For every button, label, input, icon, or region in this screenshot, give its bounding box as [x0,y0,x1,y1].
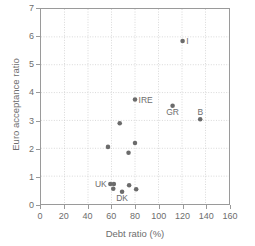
x-axis-tick-label: 120 [175,212,190,221]
y-axis-tick [36,64,40,65]
y-axis-tick-label: 7 [10,4,34,13]
x-axis-tick-label: 20 [59,212,69,221]
y-axis-tick-label: 0 [10,201,34,210]
scatter-chart-figure: IIREGRBUKDK Debt ratio (%) Euro acceptan… [0,0,255,246]
y-axis-tick [36,92,40,93]
y-axis-tick-label: 3 [10,116,34,125]
data-point [112,182,117,187]
y-axis-tick [36,36,40,37]
data-point [117,121,122,126]
x-axis-tick-label: 100 [151,212,166,221]
x-axis-tick [183,205,184,209]
data-point [133,97,138,102]
x-axis-tick-label: 0 [37,212,42,221]
x-axis-tick-label: 80 [130,212,140,221]
data-point [127,183,132,188]
x-axis-tick [135,205,136,209]
x-axis-tick [230,205,231,209]
x-axis-tick-label: 40 [82,212,92,221]
data-point-label: IRE [139,95,153,105]
x-axis-tick [40,205,41,209]
data-point [180,39,185,44]
x-axis-tick-label: 140 [199,212,214,221]
data-point-label: GR [166,107,179,117]
x-axis-title: Debt ratio (%) [40,228,230,239]
x-axis-tick-label: 160 [222,212,237,221]
data-point-label: B [197,107,203,117]
data-point [133,141,138,146]
y-axis-tick [36,121,40,122]
data-point [198,117,203,122]
y-axis-tick-label: 5 [10,60,34,69]
y-axis-tick-label: 2 [10,144,34,153]
x-axis-tick-label: 60 [106,212,116,221]
data-point-label: I [186,36,188,46]
x-axis-tick [206,205,207,209]
y-axis-tick [36,177,40,178]
data-point-label: DK [116,193,128,203]
x-axis-tick [64,205,65,209]
data-point-label: UK [95,179,107,189]
y-axis-tick-label: 1 [10,172,34,181]
data-points-layer: IIREGRBUKDK [41,9,229,204]
data-point [126,150,131,155]
x-axis-tick [159,205,160,209]
y-axis-tick-label: 6 [10,32,34,41]
plot-area: IIREGRBUKDK [40,8,230,205]
y-axis-tick [36,149,40,150]
data-point [134,187,139,192]
data-point [106,145,111,150]
x-axis-tick [88,205,89,209]
y-axis-tick [36,205,40,206]
x-axis-tick [111,205,112,209]
y-axis-tick-label: 4 [10,88,34,97]
y-axis-tick [36,8,40,9]
data-point [111,186,116,191]
